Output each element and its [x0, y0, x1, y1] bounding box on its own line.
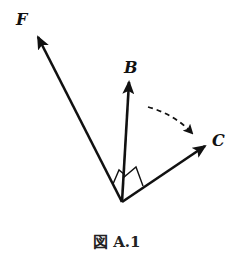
vector-f: F: [15, 10, 122, 202]
vector-diagram: F B C 図 A.1: [0, 0, 241, 264]
vector-c: C: [122, 131, 225, 202]
vector-c-arrow: [122, 146, 205, 202]
vector-f-label: F: [15, 10, 29, 29]
right-angle-marker-b-c: [123, 167, 143, 186]
rotation-arrow: [148, 107, 192, 133]
vector-c-label: C: [212, 131, 225, 150]
vector-b: B: [122, 58, 138, 202]
vector-b-label: B: [123, 58, 138, 77]
vector-b-arrow: [122, 82, 129, 202]
figure-caption: 図 A.1: [93, 233, 141, 251]
rotation-arrow-dashed-arc: [148, 107, 192, 133]
vector-f-arrow: [38, 37, 122, 202]
